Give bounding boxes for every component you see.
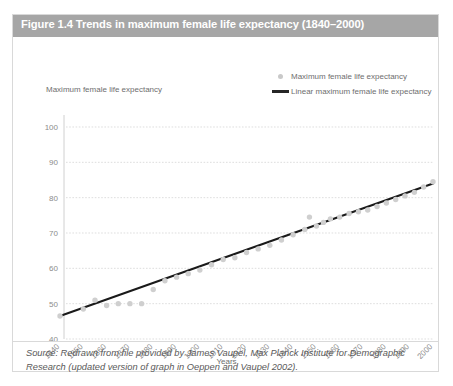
svg-text:70: 70 bbox=[49, 229, 58, 238]
svg-text:50: 50 bbox=[49, 300, 58, 309]
svg-text:80: 80 bbox=[49, 194, 58, 203]
svg-text:90: 90 bbox=[49, 158, 58, 167]
chart-plot-area: 405060708090100 184018501860187018801890… bbox=[13, 59, 440, 359]
figure-title-bar: Figure 1.4 Trends in maximum female life… bbox=[13, 15, 438, 37]
source-note: Source: Redrawn from file provided by Ja… bbox=[26, 347, 426, 374]
source-divider bbox=[13, 341, 438, 342]
svg-text:60: 60 bbox=[49, 264, 58, 273]
figure-title: Figure 1.4 Trends in maximum female life… bbox=[21, 18, 364, 30]
y-axis-ticks: 405060708090100 bbox=[45, 123, 59, 344]
chart-panel: Maximum female life expectancy Maximum f… bbox=[13, 37, 438, 341]
figure-container: Figure 1.4 Trends in maximum female life… bbox=[12, 14, 439, 372]
svg-text:100: 100 bbox=[45, 123, 59, 132]
